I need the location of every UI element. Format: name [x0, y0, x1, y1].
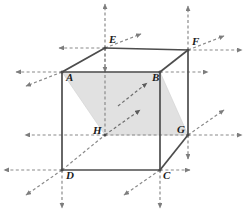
- hidden-edge-D-H: [62, 135, 105, 170]
- ray-A-diag-down: [26, 72, 62, 86]
- vertex-dot-H: [103, 133, 106, 136]
- ray-C-diag-down: [124, 170, 160, 195]
- vertex-label-A: A: [66, 72, 73, 83]
- vertex-label-F: F: [192, 36, 199, 47]
- ray-D-diag-down: [26, 170, 62, 195]
- cube-diagram: EFABHGDC: [0, 0, 245, 212]
- vertex-dot-C: [158, 168, 161, 171]
- vertex-dot-G: [186, 133, 189, 136]
- vertex-dot-D: [60, 168, 63, 171]
- edge-B-F: [160, 50, 188, 72]
- cube-figure-svg: [0, 0, 245, 212]
- vertex-label-G: G: [177, 124, 185, 135]
- vertex-label-B: B: [152, 72, 159, 83]
- edge-A-E: [62, 48, 105, 72]
- vertex-label-E: E: [109, 34, 116, 45]
- ray-G-diag-up: [188, 110, 224, 135]
- vertex-dot-E: [103, 46, 106, 49]
- vertex-dot-F: [186, 48, 189, 51]
- shaded-parallelogram-section: [62, 72, 188, 135]
- vertex-label-C: C: [163, 170, 170, 181]
- shaded-plane-group: [62, 72, 188, 135]
- vertex-dot-A: [60, 70, 63, 73]
- edge-E-F: [105, 48, 188, 50]
- vertex-label-D: D: [66, 170, 74, 181]
- edge-C-G: [160, 135, 188, 170]
- vertex-label-H: H: [93, 125, 102, 136]
